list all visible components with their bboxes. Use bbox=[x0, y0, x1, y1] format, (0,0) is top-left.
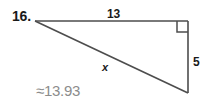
triangle-diagram bbox=[0, 0, 211, 108]
right-leg-length-label: 5 bbox=[193, 56, 199, 68]
right-angle-square-icon bbox=[177, 21, 188, 32]
hypotenuse-variable-label: x bbox=[102, 62, 108, 73]
top-leg-length-label: 13 bbox=[107, 8, 120, 20]
geometry-problem-figure: 16. 13 5 x ≈13.93 bbox=[0, 0, 211, 108]
problem-number: 16. bbox=[12, 9, 31, 23]
answer-value: ≈13.93 bbox=[36, 83, 80, 98]
